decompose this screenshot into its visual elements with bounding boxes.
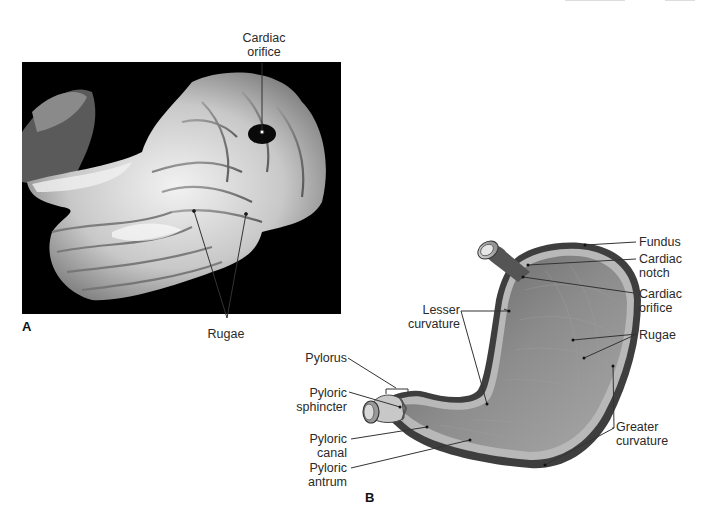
label-fundus: Fundus [639, 235, 681, 249]
label-greater-curvature: Greater curvature [616, 420, 668, 448]
label-cardiac-notch: Cardiac notch [639, 252, 682, 280]
label-pyloric-canal: Pyloric canal [290, 432, 347, 460]
label-pyloric-sphincter: Pyloric sphincter [290, 386, 347, 414]
label-pylorus: Pylorus [290, 351, 347, 365]
panel-b-letter: B [365, 490, 374, 505]
label-cardiac-orifice-b: Cardiac orifice [639, 287, 682, 315]
label-lesser-curvature: Lesser curvature [390, 303, 460, 331]
label-rugae-b: Rugae [639, 328, 676, 342]
label-pyloric-antrum: Pyloric antrum [290, 461, 347, 489]
stomach-diagram [0, 0, 708, 532]
